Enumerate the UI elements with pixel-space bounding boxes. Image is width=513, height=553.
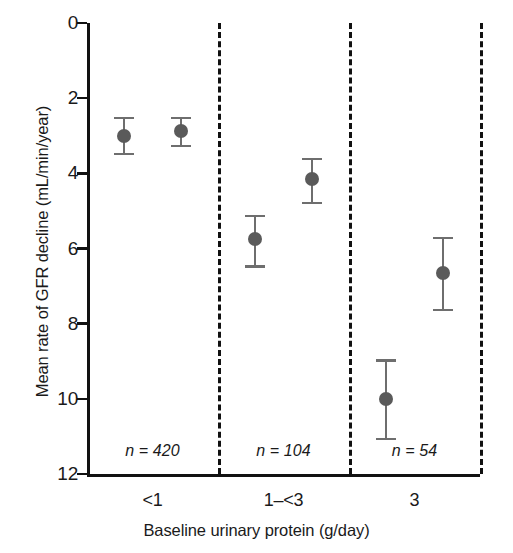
group-divider (218, 23, 221, 474)
y-tick-mark (77, 97, 87, 100)
group-n-label: n = 54 (392, 442, 438, 460)
error-bar-cap-upper (376, 359, 396, 361)
data-marker (379, 392, 393, 406)
x-axis-title: Baseline urinary protein (g/day) (0, 521, 513, 540)
y-tick-mark (77, 22, 87, 25)
y-axis-tick-labels: 024681012 (26, 0, 78, 553)
data-marker (248, 232, 262, 246)
error-bar-cap-lower (245, 265, 265, 267)
y-tick-mark (77, 398, 87, 401)
group-divider (349, 23, 352, 474)
error-bar-cap-lower (171, 145, 191, 147)
error-bar-cap-upper (302, 158, 322, 160)
x-axis-line (87, 474, 480, 477)
y-tick-mark (77, 473, 87, 476)
data-marker (436, 266, 450, 280)
x-tick-label: 3 (410, 490, 420, 511)
error-bar-cap-upper (245, 215, 265, 217)
chart-figure: Mean rate of GFR decline (mL/min/year) 0… (0, 0, 513, 553)
y-tick-mark (77, 247, 87, 250)
group-n-label: n = 104 (256, 442, 311, 460)
y-tick-mark (77, 172, 87, 175)
group-n-label: n = 420 (125, 442, 180, 460)
error-bar-cap-lower (433, 309, 453, 311)
error-bar-cap-upper (433, 237, 453, 239)
error-bar-cap-lower (302, 202, 322, 204)
error-bar-cap-lower (376, 438, 396, 440)
y-tick-label: 0 (38, 13, 78, 32)
y-tick-label: 8 (38, 314, 78, 333)
error-bar-cap-lower (114, 153, 134, 155)
error-bar-cap-upper (114, 117, 134, 119)
y-tick-label: 4 (38, 163, 78, 182)
y-tick-mark (77, 322, 87, 325)
y-tick-label: 2 (38, 88, 78, 107)
y-tick-label: 6 (38, 239, 78, 258)
plot-area: n = 420<1n = 1041–<3n = 543 (87, 23, 480, 474)
data-marker (174, 124, 188, 138)
y-tick-label: 10 (38, 389, 78, 408)
data-marker (117, 129, 131, 143)
x-tick-label: <1 (142, 490, 162, 511)
x-tick-label: 1–<3 (264, 490, 304, 511)
y-tick-label: 12 (38, 464, 78, 483)
y-axis-line (87, 23, 90, 474)
error-bar-cap-upper (171, 117, 191, 119)
group-divider (480, 23, 483, 474)
data-marker (305, 172, 319, 186)
